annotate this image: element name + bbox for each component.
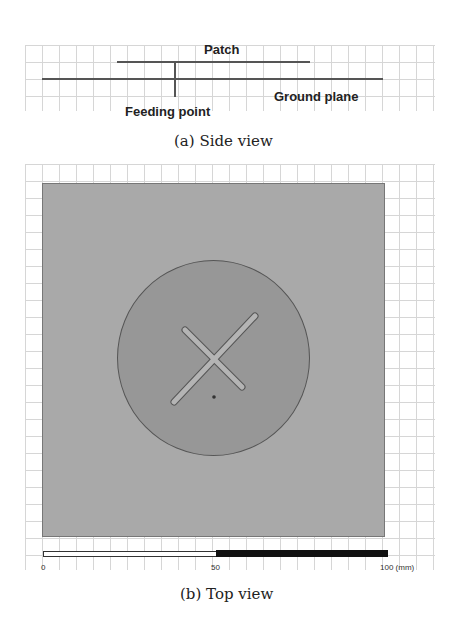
cross-slot-icon (0, 0, 464, 640)
scale-bar-white (43, 551, 217, 557)
scale-tick-100: 100 (mm) (380, 563, 414, 572)
scale-tick-50: 50 (211, 563, 220, 572)
top-view-caption: (b) Top view (180, 585, 273, 603)
scale-bar-black (216, 550, 388, 557)
scale-tick-0: 0 (41, 563, 45, 572)
